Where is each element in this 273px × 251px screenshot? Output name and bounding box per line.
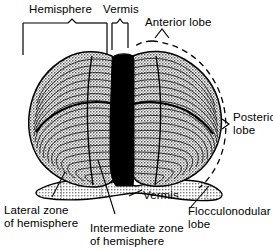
- label-hemisphere: Hemisphere: [29, 3, 92, 17]
- label-intermediate-zone-line2: of hemisphere: [90, 235, 164, 249]
- vermis-bracket: [112, 19, 128, 50]
- label-vermis-top: Vermis: [103, 3, 139, 17]
- label-lateral-zone-line1: Lateral zone: [4, 204, 69, 218]
- cerebellum-diagram: Hemisphere Vermis Anterior lobe Posterio…: [0, 0, 273, 251]
- label-vermis-bottom: Vermis: [143, 189, 179, 203]
- label-flocculonodular-line1: Flocculonodular: [188, 205, 271, 219]
- label-posterior-lobe-line1: Posterior: [233, 111, 273, 125]
- label-lateral-zone-line2: of hemisphere: [4, 217, 78, 231]
- anterior-lobe-dashed-line: [134, 41, 152, 47]
- hemisphere-bracket: [23, 19, 107, 55]
- left-hemisphere-shape: [29, 52, 115, 187]
- anterior-lobe-pointer: [155, 29, 169, 38]
- label-posterior-lobe-line2: lobe: [233, 124, 255, 138]
- vermis-shape: [110, 54, 134, 186]
- label-flocculonodular-line2: lobe: [188, 218, 210, 232]
- label-anterior-lobe: Anterior lobe: [145, 16, 212, 30]
- label-intermediate-zone-line1: Intermediate zone: [90, 222, 184, 236]
